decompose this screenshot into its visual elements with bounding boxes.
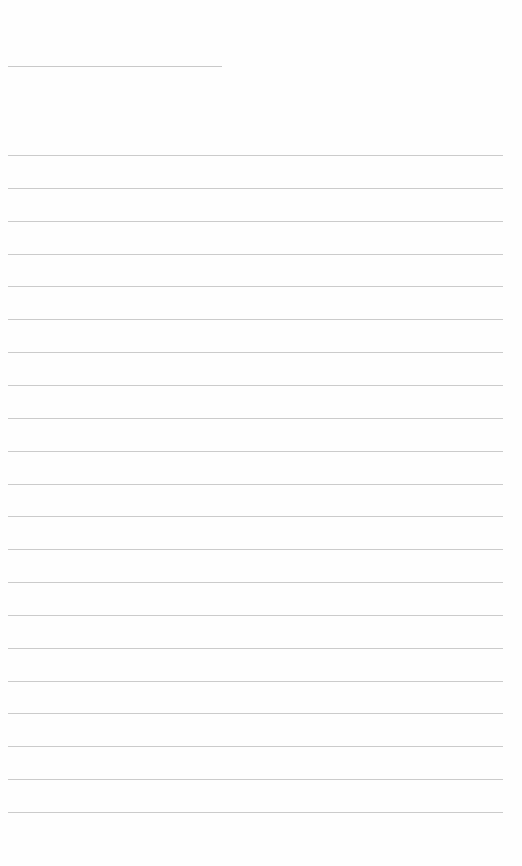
ruled-line	[8, 155, 503, 156]
ruled-lines-area	[8, 0, 503, 866]
ruled-line	[8, 254, 503, 255]
ruled-line	[8, 451, 503, 452]
ruled-line	[8, 681, 503, 682]
ruled-line	[8, 484, 503, 485]
ruled-line	[8, 385, 503, 386]
ruled-line	[8, 516, 503, 517]
ruled-line	[8, 648, 503, 649]
ruled-line	[8, 352, 503, 353]
ruled-line	[8, 319, 503, 320]
ruled-line	[8, 713, 503, 714]
ruled-line	[8, 615, 503, 616]
ruled-line	[8, 188, 503, 189]
ruled-line	[8, 286, 503, 287]
ruled-line	[8, 582, 503, 583]
ruled-line	[8, 418, 503, 419]
ruled-line	[8, 549, 503, 550]
ruled-line	[8, 812, 503, 813]
ruled-line	[8, 779, 503, 780]
ruled-line	[8, 746, 503, 747]
ruled-line	[8, 221, 503, 222]
lined-page	[0, 0, 522, 866]
